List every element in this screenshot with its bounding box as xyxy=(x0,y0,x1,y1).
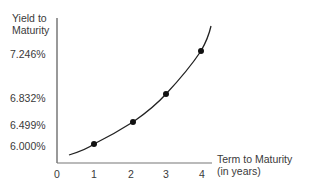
y-tick-6-499: 6.499% xyxy=(10,119,46,131)
x-tick-0: 0 xyxy=(54,168,60,180)
data-point-year-3 xyxy=(163,91,169,97)
data-point-year-4 xyxy=(198,48,204,54)
x-tick-2: 2 xyxy=(128,168,134,180)
x-tick-1: 1 xyxy=(91,168,97,180)
y-axis-title-line1: Yield to xyxy=(12,12,49,24)
data-point-year-1 xyxy=(91,141,97,147)
y-tick-6-832: 6.832% xyxy=(10,92,46,104)
yield-curve-line xyxy=(69,26,211,155)
x-axis-title-line1: Term to Maturity xyxy=(217,153,292,165)
yield-curve-chart: Yield to Maturity 7.246% 6.832% 6.499% 6… xyxy=(0,0,310,187)
y-axis-title-line2: Maturity xyxy=(12,24,49,36)
y-axis-title: Yield to Maturity xyxy=(12,12,49,36)
y-tick-6-000: 6.000% xyxy=(10,140,46,152)
x-tick-4: 4 xyxy=(199,168,205,180)
x-axis-title: Term to Maturity (in years) xyxy=(217,153,292,177)
data-point-year-2 xyxy=(130,119,136,125)
y-tick-7-246: 7.246% xyxy=(10,48,46,60)
x-tick-3: 3 xyxy=(163,168,169,180)
x-axis-title-line2: (in years) xyxy=(217,165,292,177)
